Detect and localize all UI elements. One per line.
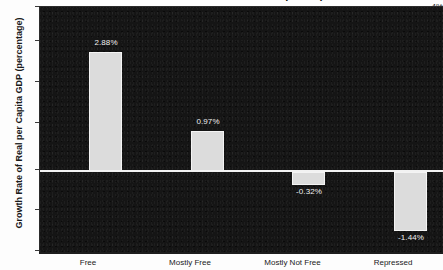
x-tick-label-repressed: Repressed bbox=[363, 258, 423, 267]
plot-area: 2.88% 0.97% -0.32% -1.44% bbox=[39, 6, 443, 253]
chart-title-text: Economic Freedom and Growth in Real per … bbox=[0, 0, 443, 1]
bar-mostly-free bbox=[191, 131, 224, 171]
bar-label-free: 2.88% bbox=[76, 38, 136, 47]
chart-screenshot: Economic Freedom and Growth in Real per … bbox=[0, 0, 443, 270]
x-tick-label-mostly-not-free: Mostly Not Free bbox=[255, 258, 330, 267]
bar-repressed bbox=[394, 172, 427, 231]
x-tick-label-mostly-free: Mostly Free bbox=[160, 258, 220, 267]
x-axis-line bbox=[39, 252, 443, 254]
x-tick-label-free: Free bbox=[58, 258, 118, 267]
bar-free bbox=[89, 52, 122, 171]
bar-label-repressed: -1.44% bbox=[381, 233, 441, 242]
chart-title-clipped: Economic Freedom and Growth in Real per … bbox=[0, 0, 443, 5]
bar-mostly-not-free bbox=[292, 172, 325, 185]
bar-label-mostly-not-free: -0.32% bbox=[279, 187, 339, 196]
bar-label-mostly-free: 0.97% bbox=[178, 117, 238, 126]
y-axis-title: Growth Rate of Real per Capita GDP (perc… bbox=[14, 8, 24, 238]
